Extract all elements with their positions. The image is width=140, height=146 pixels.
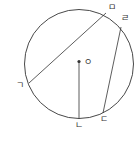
label-m: ㅁ xyxy=(108,2,116,12)
label-d: ㄷ xyxy=(100,114,108,124)
label-center: ㅇ xyxy=(84,57,92,67)
label-n: ㄴ xyxy=(75,120,83,130)
center-point xyxy=(77,60,80,63)
chord-g-m xyxy=(29,13,106,83)
circle-diagram: ㅇ ㄱ ㄴ ㄷ ㄹ ㅁ xyxy=(0,0,140,146)
chord-d-r xyxy=(103,27,121,113)
label-r: ㄹ xyxy=(121,13,129,23)
label-g: ㄱ xyxy=(16,80,24,90)
